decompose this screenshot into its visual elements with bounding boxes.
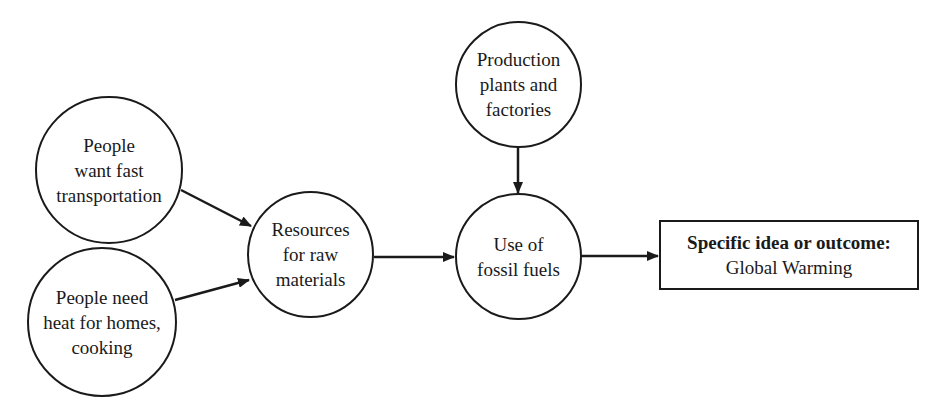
node-text-line: factories bbox=[486, 97, 551, 122]
node-fossil-fuels: Use of fossil fuels bbox=[455, 193, 582, 320]
node-text-line: materials bbox=[276, 267, 346, 292]
node-text-line: transportation bbox=[56, 183, 162, 208]
node-text-line: plants and bbox=[480, 72, 558, 97]
node-text-line: want fast bbox=[74, 158, 143, 183]
arrow-heat-to-resources bbox=[175, 280, 249, 300]
arrow-transport-to-resources bbox=[181, 190, 251, 226]
node-text-line: People need bbox=[56, 285, 148, 310]
node-text-line: Production bbox=[477, 47, 560, 72]
node-production-plants: Production plants and factories bbox=[455, 21, 582, 148]
node-fast-transportation: People want fast transportation bbox=[35, 96, 183, 244]
outcome-box: Specific idea or outcome: Global Warming bbox=[659, 220, 919, 290]
node-text-line: Resources bbox=[271, 217, 349, 242]
node-text-line: Use of bbox=[493, 232, 543, 257]
outcome-text: Global Warming bbox=[726, 255, 852, 280]
node-text-line: for raw bbox=[283, 242, 338, 267]
node-resources-raw-materials: Resources for raw materials bbox=[247, 191, 374, 318]
node-text-line: People bbox=[83, 133, 135, 158]
node-text-line: fossil fuels bbox=[477, 257, 560, 282]
node-heat-for-homes: People need heat for homes, cooking bbox=[27, 247, 177, 397]
node-text-line: heat for homes, bbox=[43, 310, 161, 335]
outcome-heading: Specific idea or outcome: bbox=[687, 230, 891, 255]
node-text-line: cooking bbox=[71, 335, 132, 360]
